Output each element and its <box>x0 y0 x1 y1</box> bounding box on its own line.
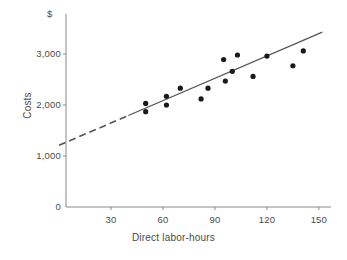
y-axis-currency-symbol: $ <box>47 8 52 19</box>
trendline-solid-segment <box>128 32 322 115</box>
trendline-dashed-segment <box>59 116 128 146</box>
scatter-chart: $ 01,0002,0003,000 306090120150 Costs Di… <box>0 0 347 260</box>
data-point <box>264 53 269 58</box>
data-point <box>143 101 148 106</box>
data-point <box>205 86 210 91</box>
y-tick-label: 2,000 <box>36 99 61 110</box>
data-point <box>301 48 306 53</box>
data-point <box>178 86 183 91</box>
x-tick-label: 90 <box>195 214 235 225</box>
data-point <box>235 52 240 57</box>
data-point <box>223 78 228 83</box>
data-point <box>164 94 169 99</box>
y-axis-title: Costs <box>22 76 33 136</box>
x-tick-label: 150 <box>299 214 339 225</box>
data-point <box>198 96 203 101</box>
data-point <box>164 102 169 107</box>
data-point <box>230 69 235 74</box>
y-tick-label: 0 <box>56 201 61 212</box>
trendline-group <box>59 32 322 145</box>
data-point <box>250 74 255 79</box>
data-point <box>143 109 148 114</box>
axes-group <box>63 14 331 210</box>
data-point <box>221 57 226 62</box>
x-axis-title: Direct labor-hours <box>0 232 347 243</box>
data-point <box>290 63 295 68</box>
x-tick-label: 120 <box>247 214 287 225</box>
x-tick-label: 30 <box>91 214 131 225</box>
y-tick-label: 1,000 <box>36 150 61 161</box>
x-tick-label: 60 <box>143 214 183 225</box>
data-points-group <box>143 48 306 114</box>
y-tick-label: 3,000 <box>36 48 61 59</box>
